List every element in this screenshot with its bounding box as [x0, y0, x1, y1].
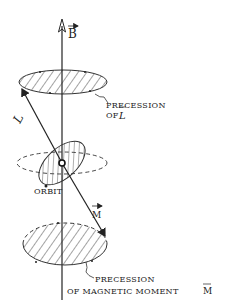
label-L: L: [10, 112, 27, 127]
precession-L-ellipse: [19, 70, 107, 94]
origin-point: [59, 160, 65, 166]
svg-text:OF: OF: [106, 111, 119, 120]
svg-text:M: M: [92, 210, 101, 220]
precession-M-ellipse: [23, 222, 107, 265]
svg-text:L: L: [118, 110, 126, 121]
L-vector: [22, 89, 62, 163]
svg-text:M: M: [203, 286, 212, 296]
label-orbit: ORBIT: [34, 187, 63, 196]
svg-text:PRECESSION: PRECESSION: [95, 275, 155, 284]
leader-line-M: [86, 262, 94, 278]
label-B: B: [68, 26, 78, 41]
svg-text:OF MAGNETIC MOMENT: OF MAGNETIC MOMENT: [67, 287, 179, 296]
label-M: M: [92, 206, 102, 220]
label-precession-M: PRECESSION OF MAGNETIC MOMENT M: [67, 275, 212, 296]
precession-diagram: B L M ORBIT PRECESSION OF L PRECES: [0, 0, 230, 306]
label-precession-L: PRECESSION OF L: [106, 101, 166, 121]
svg-text:PRECESSION: PRECESSION: [106, 101, 166, 110]
svg-text:L: L: [10, 112, 27, 127]
svg-text:B: B: [68, 27, 77, 41]
